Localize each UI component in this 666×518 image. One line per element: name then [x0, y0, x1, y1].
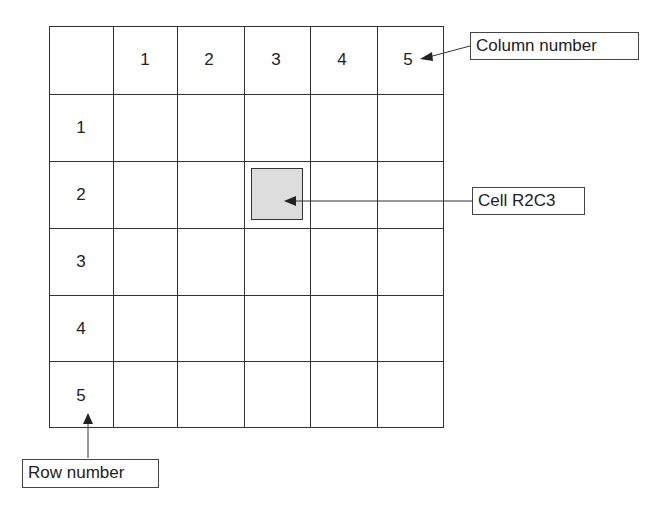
- callout-arrows: [0, 0, 666, 518]
- row-number-callout: Row number: [22, 459, 159, 488]
- cell-r2c3-callout: Cell R2C3: [472, 187, 585, 215]
- column-number-callout: Column number: [470, 32, 639, 60]
